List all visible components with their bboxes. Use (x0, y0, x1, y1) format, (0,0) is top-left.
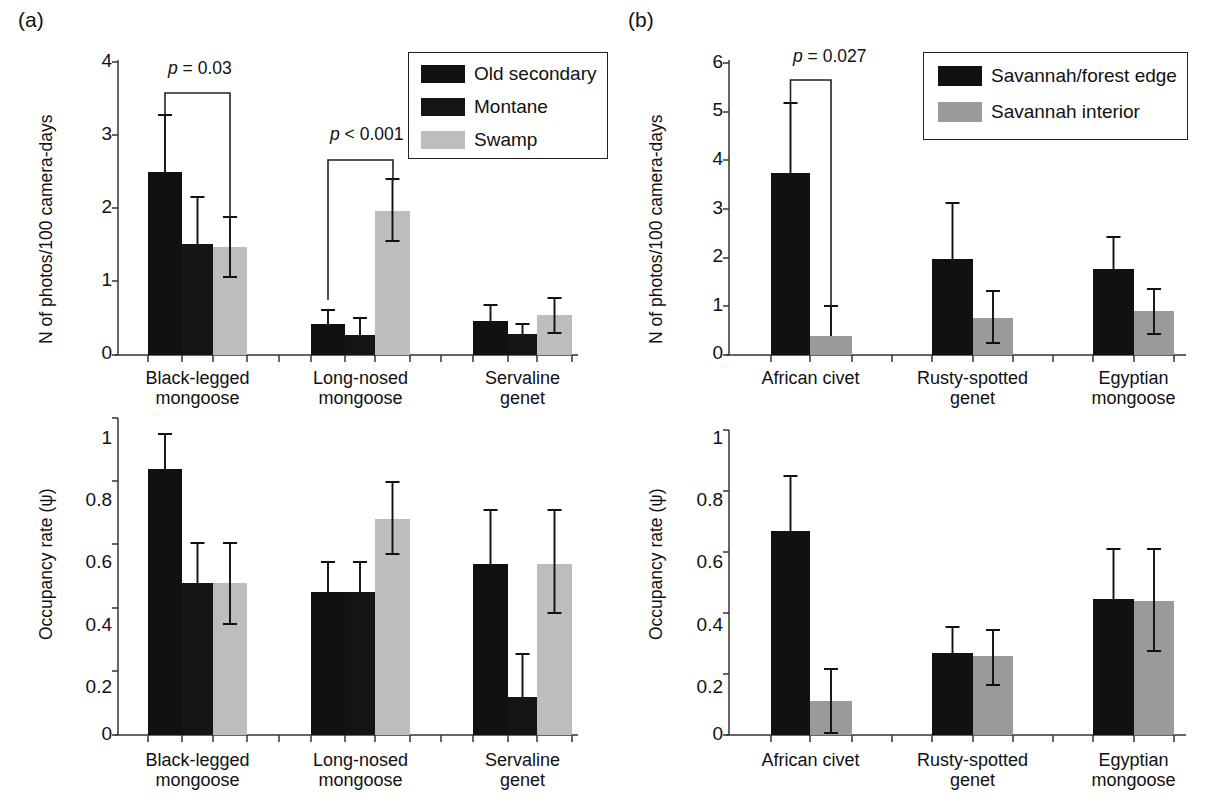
a-top-y-axis-title: N of photos/100 camera-days (36, 114, 57, 344)
b-top-ytick-4: 4 (693, 148, 723, 170)
b-top-category-1: Rusty-spotted genet (900, 368, 1045, 408)
b-bottom-category-0: African civet (738, 750, 883, 770)
legend-panel-a: Old secondary Montane Swamp (408, 52, 608, 159)
legend-swatch-montane (421, 98, 465, 116)
a-bottom-ytick-02: 0.2 (72, 676, 112, 698)
legend-label-montane: Montane (474, 96, 548, 118)
b-top-y-axis-title: N of photos/100 camera-days (646, 114, 667, 344)
legend-label-savannah-interior: Savannah interior (991, 101, 1140, 123)
a-top-ytick-1: 1 (82, 269, 112, 291)
b-top-category-2: Egyptian mongoose (1061, 368, 1206, 408)
a-bottom-ytick-0: 0 (72, 723, 112, 745)
panel-b-tag: (b) (628, 8, 654, 32)
legend-item-b-1: Savannah interior (938, 101, 1140, 123)
b-bottom-category-2: Egyptian mongoose (1061, 750, 1206, 790)
a-bottom-ytick-08: 0.8 (72, 489, 112, 511)
b-bottom-ytick-02: 0.2 (683, 676, 723, 698)
b-bottom-ytick-1: 1 (683, 427, 723, 449)
a-top-ytick-2: 2 (82, 196, 112, 218)
a-bottom-ytick-04: 0.4 (72, 614, 112, 636)
legend-label-old-secondary: Old secondary (474, 63, 597, 85)
a-top-category-1: Long-nosed mongoose (288, 368, 433, 408)
b-bottom-ytick-06: 0.6 (683, 551, 723, 573)
legend-panel-b: Savannah/forest edge Savannah interior (923, 52, 1188, 140)
figure-root: (a) N of photos/100 camera-days 4 3 2 1 … (0, 0, 1210, 812)
a-top-pvalue-2: p < 0.001 (330, 124, 403, 145)
b-top-category-0: African civet (738, 368, 883, 388)
b-bottom-ytick-0: 0 (683, 723, 723, 745)
a-top-ytick-4: 4 (82, 50, 112, 72)
a-bottom-ytick-06: 0.6 (72, 551, 112, 573)
a-top-ytick-3: 3 (82, 123, 112, 145)
a-bottom-ytick-1: 1 (72, 427, 112, 449)
b-top-ytick-2: 2 (693, 245, 723, 267)
b-bottom-y-axis-title: Occupancy rate (ψ) (646, 488, 667, 640)
b-bottom-category-1: Rusty-spotted genet (900, 750, 1045, 790)
legend-swatch-swamp (421, 131, 465, 149)
b-top-pvalue-1: p = 0.027 (793, 46, 866, 67)
a-top-category-0: Black-legged mongoose (125, 368, 270, 408)
legend-item-b-0: Savannah/forest edge (938, 65, 1177, 87)
b-top-ytick-6: 6 (693, 51, 723, 73)
legend-item-a-0: Old secondary (421, 63, 597, 85)
legend-swatch-savannah-interior (938, 102, 982, 122)
a-top-pvalue-1: p = 0.03 (168, 58, 232, 79)
a-top-category-2: Servaline genet (450, 368, 595, 408)
b-top-ytick-1: 1 (693, 294, 723, 316)
b-top-ytick-0: 0 (693, 342, 723, 364)
legend-label-savannah-forest-edge: Savannah/forest edge (991, 65, 1177, 87)
b-top-ytick-3: 3 (693, 197, 723, 219)
b-top-ytick-5: 5 (693, 99, 723, 121)
legend-item-a-2: Swamp (421, 129, 537, 151)
legend-swatch-savannah-forest-edge (938, 66, 982, 86)
a-bottom-y-axis-title: Occupancy rate (ψ) (36, 488, 57, 640)
b-bottom-ytick-08: 0.8 (683, 489, 723, 511)
a-top-ytick-0: 0 (82, 342, 112, 364)
panel-a-tag: (a) (18, 8, 44, 32)
a-bottom-category-1: Long-nosed mongoose (288, 750, 433, 790)
a-bottom-category-0: Black-legged mongoose (125, 750, 270, 790)
legend-label-swamp: Swamp (474, 129, 537, 151)
legend-item-a-1: Montane (421, 96, 548, 118)
b-bottom-ytick-04: 0.4 (683, 614, 723, 636)
a-bottom-category-2: Servaline genet (450, 750, 595, 790)
legend-swatch-old-secondary (421, 65, 465, 83)
